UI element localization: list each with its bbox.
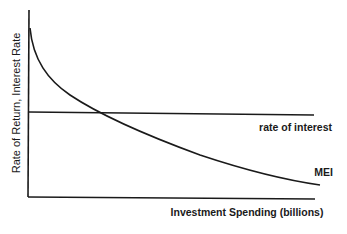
mei-curve — [30, 28, 320, 185]
interest-rate-label: rate of interest — [259, 121, 332, 133]
chart-canvas: Rate of Return, Interest Rate rate of in… — [0, 0, 347, 234]
interest-rate-line — [29, 112, 314, 115]
y-axis-label: Rate of Return, Interest Rate — [10, 33, 22, 174]
x-axis — [28, 197, 315, 199]
y-axis — [28, 10, 29, 197]
x-axis-label: Investment Spending (billions) — [171, 206, 324, 218]
mei-label: MEI — [314, 166, 333, 178]
mei-chart: Rate of Return, Interest Rate rate of in… — [0, 0, 347, 234]
